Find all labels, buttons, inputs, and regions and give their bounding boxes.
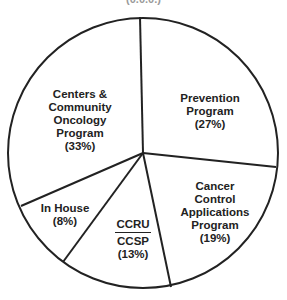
label-line: Program bbox=[165, 105, 255, 118]
label-line: In House bbox=[35, 202, 95, 215]
label-percent: (27%) bbox=[165, 118, 255, 131]
label-line: Program bbox=[30, 127, 130, 140]
label-line: Centers & bbox=[30, 88, 130, 101]
label-line: Control bbox=[165, 193, 265, 206]
label-line: Applications bbox=[165, 206, 265, 219]
label-fraction-top: CCRU bbox=[115, 218, 150, 233]
label-prevention-program: Prevention Program (27%) bbox=[165, 92, 255, 131]
label-in-house: In House (8%) bbox=[35, 202, 95, 228]
label-fraction-bottom: CCSP bbox=[108, 235, 158, 248]
label-ccru-ccsp: CCRU CCSP (13%) bbox=[108, 218, 158, 261]
label-percent: (13%) bbox=[108, 248, 158, 261]
label-line: Prevention bbox=[165, 92, 255, 105]
label-line: Community bbox=[30, 101, 130, 114]
label-percent: (19%) bbox=[165, 232, 265, 245]
label-percent: (8%) bbox=[35, 215, 95, 228]
label-percent: (33%) bbox=[30, 140, 130, 153]
label-centers-community-oncology: Centers & Community Oncology Program (33… bbox=[30, 88, 130, 153]
label-cancer-control-applications: Cancer Control Applications Program (19%… bbox=[165, 180, 265, 245]
label-line: Cancer bbox=[165, 180, 265, 193]
label-line: Program bbox=[165, 219, 265, 232]
label-line: Oncology bbox=[30, 114, 130, 127]
